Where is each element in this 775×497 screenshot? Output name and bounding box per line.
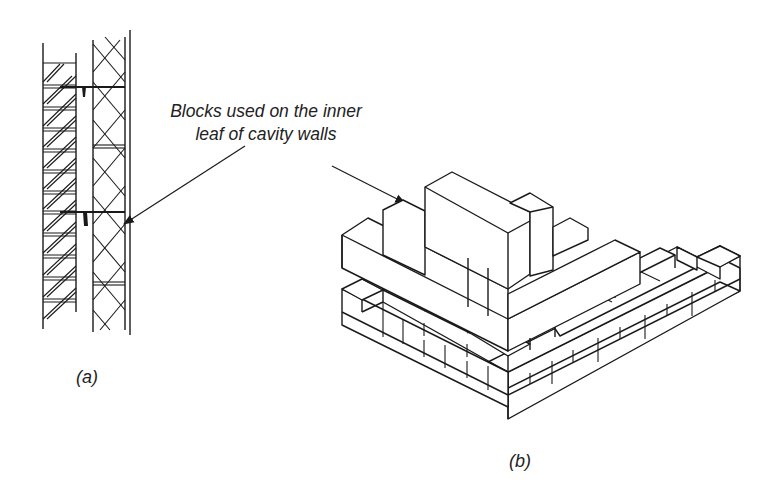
callout-leaders: [124, 146, 405, 224]
outer-brick-leaf: [43, 43, 76, 329]
cavity-wall-figure: Blocks used on the inner leaf of cavity …: [0, 0, 775, 497]
isometric-blockwork-b: [342, 172, 740, 419]
callout-line-2: leaf of cavity walls: [140, 123, 392, 146]
inner-block-leaf: [93, 30, 130, 335]
callout-label: Blocks used on the inner leaf of cavity …: [140, 100, 392, 146]
panel-label-a: (a): [76, 367, 98, 388]
diagram-drawing: [0, 0, 775, 497]
panel-label-b: (b): [509, 451, 531, 472]
wall-section-a: [43, 30, 130, 335]
callout-line-1: Blocks used on the inner: [140, 100, 392, 123]
